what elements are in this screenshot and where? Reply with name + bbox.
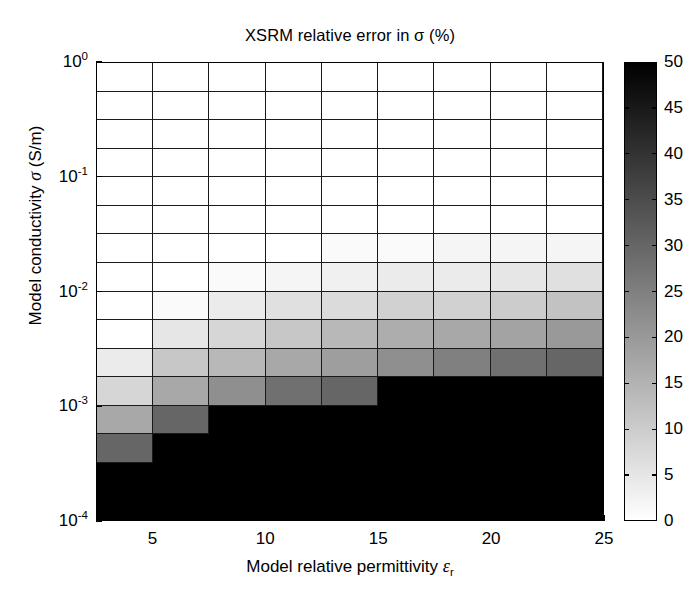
heatmap-cell: [209, 463, 265, 492]
heatmap-cell: [153, 491, 209, 520]
colorbar-tick-mark: [624, 153, 629, 154]
heatmap-cell: [97, 263, 153, 292]
heatmap-cell: [153, 206, 209, 235]
colorbar-tick-label: 10: [664, 419, 683, 439]
heatmap-cell: [153, 149, 209, 178]
heatmap-cell: [434, 320, 490, 349]
heatmap-cell: [97, 234, 153, 263]
colorbar-tick-mark: [624, 429, 629, 430]
heatmap-cell: [97, 349, 153, 378]
heatmap-cell: [378, 177, 434, 206]
heatmap-cell: [491, 263, 547, 292]
heatmap-cell: [266, 349, 322, 378]
heatmap-cell: [491, 206, 547, 235]
heatmap-cell: [378, 463, 434, 492]
heatmap-cell: [153, 263, 209, 292]
colorbar-tick-label: 25: [664, 282, 683, 302]
y-tick-mark: [96, 61, 102, 62]
colorbar[interactable]: 05101520253035404550: [624, 62, 657, 521]
heatmap-cell: [491, 292, 547, 321]
x-tick-mark: [378, 515, 379, 521]
colorbar-tick-label: 40: [664, 144, 683, 164]
heatmap-cell: [547, 377, 603, 406]
heatmap-cell: [491, 349, 547, 378]
heatmap-cell: [322, 149, 378, 178]
heatmap-cell: [491, 377, 547, 406]
heatmap-cell: [434, 177, 490, 206]
heatmap-cell: [378, 320, 434, 349]
colorbar-tick-mark: [624, 291, 629, 292]
x-tick-mark: [265, 515, 266, 521]
heatmap-cell: [378, 406, 434, 435]
heatmap-cell: [153, 92, 209, 121]
heatmap-cell: [153, 406, 209, 435]
colorbar-tick-mark: [624, 107, 629, 108]
y-tick-mark: [96, 406, 102, 407]
colorbar-tick-mark: [652, 291, 657, 292]
heatmap-cell: [547, 234, 603, 263]
heatmap-cell: [434, 263, 490, 292]
heatmap-cell: [153, 234, 209, 263]
heatmap-cell: [153, 177, 209, 206]
heatmap-cell: [378, 63, 434, 92]
heatmap-cell: [209, 434, 265, 463]
chart-title: XSRM relative error in σ (%): [96, 26, 604, 45]
heatmap-cell: [491, 177, 547, 206]
heatmap-cell: [209, 149, 265, 178]
heatmap-cell: [266, 491, 322, 520]
heatmap-cell: [153, 434, 209, 463]
heatmap-cell: [322, 292, 378, 321]
heatmap-cell: [153, 349, 209, 378]
x-tick-mark: [152, 515, 153, 521]
colorbar-tick-mark: [652, 337, 657, 338]
colorbar-tick-mark: [624, 383, 629, 384]
heatmap-cell: [322, 63, 378, 92]
heatmap-cell: [378, 434, 434, 463]
heatmap-cell: [209, 263, 265, 292]
heatmap-cell: [322, 377, 378, 406]
heatmap-cell: [322, 234, 378, 263]
heatmap-cell: [547, 120, 603, 149]
heatmap-cell: [434, 120, 490, 149]
heatmap-cell: [322, 320, 378, 349]
heatmap-cell: [378, 349, 434, 378]
heatmap-cell: [153, 320, 209, 349]
heatmap-cell: [322, 177, 378, 206]
heatmap-cell: [153, 120, 209, 149]
heatmap-cell: [266, 377, 322, 406]
heatmap-cell: [322, 120, 378, 149]
heatmap-cell: [434, 206, 490, 235]
sigma-symbol: σ: [25, 172, 45, 181]
heatmap-cell: [547, 92, 603, 121]
heatmap-cell: [434, 463, 490, 492]
colorbar-tick-mark: [652, 383, 657, 384]
colorbar-tick-label: 35: [664, 190, 683, 210]
heatmap-cell: [378, 92, 434, 121]
heatmap-cell: [547, 463, 603, 492]
heatmap-cell: [209, 349, 265, 378]
epsilon-symbol: ε: [443, 556, 450, 576]
colorbar-tick-mark: [624, 337, 629, 338]
heatmap-cell: [97, 434, 153, 463]
heatmap-cell: [491, 234, 547, 263]
heatmap-cell: [491, 92, 547, 121]
heatmap-cell: [547, 206, 603, 235]
x-tick-mark: [603, 515, 604, 521]
heatmap-cell: [209, 491, 265, 520]
colorbar-tick-mark: [652, 245, 657, 246]
heatmap-cell: [547, 149, 603, 178]
heatmap-cell: [547, 491, 603, 520]
heatmap-cell: [378, 149, 434, 178]
heatmap-cell: [266, 263, 322, 292]
heatmap-cell: [491, 63, 547, 92]
y-axis-label-suffix: (S/m): [26, 126, 45, 172]
colorbar-tick-mark: [652, 107, 657, 108]
heatmap-cell: [322, 206, 378, 235]
heatmap-cell: [97, 92, 153, 121]
heatmap-cell: [209, 377, 265, 406]
y-tick-mark: [96, 520, 102, 521]
heatmap-cell: [434, 92, 490, 121]
heatmap-cell: [209, 120, 265, 149]
heatmap-plot-area[interactable]: [96, 62, 604, 521]
heatmap-cell: [209, 92, 265, 121]
